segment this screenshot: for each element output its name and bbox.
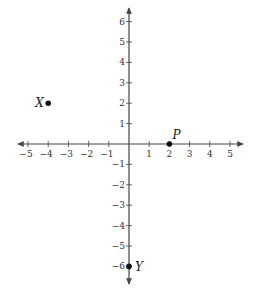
x-tick-label: 2: [167, 149, 173, 159]
point-p: [167, 141, 173, 147]
x-tick-label: 5: [227, 149, 233, 159]
plotted-points: XPY: [34, 96, 181, 274]
x-tick-label: −1: [100, 149, 113, 159]
y-tick-label: 2: [119, 98, 125, 108]
y-tick-label: 6: [119, 17, 125, 27]
coordinate-plane: −5−4−3−2−112345−6−5−4−3−2−1123456 XPY: [0, 0, 258, 296]
x-tick-label: 3: [187, 149, 193, 159]
y-tick-label: 3: [119, 78, 125, 88]
y-tick-label: −3: [112, 200, 126, 210]
y-tick-label: −6: [112, 261, 126, 271]
point-label-p: P: [171, 128, 181, 142]
point-label-y: Y: [135, 260, 144, 274]
x-tick-label: −2: [80, 149, 93, 159]
x-tick-label: −4: [40, 149, 54, 159]
x-tick-label: 4: [207, 149, 213, 159]
y-tick-label: 1: [119, 119, 125, 129]
x-tick-label: −5: [19, 149, 33, 159]
y-tick-label: −5: [112, 241, 126, 251]
y-tick-label: 4: [119, 57, 125, 67]
y-tick-label: −4: [112, 221, 126, 231]
y-tick-label: −1: [112, 159, 125, 169]
point-x: [45, 100, 51, 106]
point-y: [126, 264, 132, 270]
y-tick-label: −2: [112, 180, 125, 190]
x-tick-label: 1: [146, 149, 152, 159]
x-tick-label: −3: [60, 149, 74, 159]
point-label-x: X: [34, 96, 44, 110]
y-tick-label: 5: [119, 37, 125, 47]
